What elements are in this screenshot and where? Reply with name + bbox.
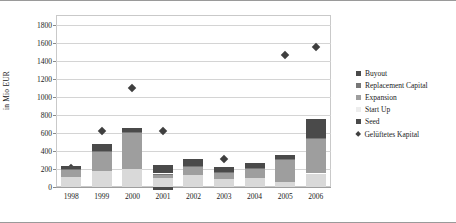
y-tick-label: 1000 — [37, 93, 52, 102]
bar-segment[interactable] — [122, 133, 142, 169]
bar-segment[interactable] — [61, 166, 81, 169]
bar-segment[interactable] — [214, 172, 234, 173]
y-tick-label: 0 — [48, 183, 52, 192]
stacked-bar[interactable] — [306, 15, 326, 187]
bar-group: 2003 — [209, 15, 240, 187]
chart-legend: BuyoutReplacement CapitalExpansionStart … — [356, 67, 454, 140]
bar-segment[interactable] — [245, 163, 265, 168]
bar-segment[interactable] — [306, 138, 326, 139]
plot-area: 020040060080010001200140016001800 199819… — [56, 15, 331, 187]
x-tick-label: 2004 — [247, 192, 262, 201]
bar-segment[interactable] — [214, 173, 234, 179]
legend-label: Expansion — [365, 93, 397, 102]
bar-segment[interactable] — [245, 169, 265, 178]
y-tick-label: 1400 — [37, 57, 52, 66]
stacked-bar[interactable] — [92, 15, 112, 187]
stacked-bar[interactable] — [122, 15, 142, 187]
stacked-bar[interactable] — [275, 15, 295, 187]
bar-segment[interactable] — [61, 177, 81, 187]
square-swatch-icon — [356, 83, 361, 88]
bar-segment[interactable] — [92, 171, 112, 187]
bar-segment[interactable] — [153, 174, 173, 178]
bar-segment[interactable] — [153, 178, 173, 187]
bar-segment[interactable] — [306, 119, 326, 139]
square-swatch-icon — [356, 119, 361, 124]
bar-segment[interactable] — [122, 169, 142, 187]
bar-group: 2005 — [270, 15, 301, 187]
y-tick-label: 600 — [41, 129, 52, 138]
bar-segment[interactable] — [275, 159, 295, 160]
bar-segment[interactable] — [214, 167, 234, 172]
bar-segment[interactable] — [306, 139, 326, 173]
x-tick-label: 1998 — [64, 192, 79, 201]
bar-segment[interactable] — [214, 179, 234, 187]
legend-label: Replacement Capital — [365, 81, 428, 90]
bar-segment[interactable] — [275, 160, 295, 183]
bar-segment[interactable] — [245, 168, 265, 169]
legend-item[interactable]: Buyout — [356, 67, 454, 79]
y-tick-label: 200 — [41, 165, 52, 174]
y-tick-mark — [53, 187, 56, 188]
bar-segment[interactable] — [275, 182, 295, 187]
bar-segment[interactable] — [122, 128, 142, 132]
y-axis-label: in Mio EUR — [2, 71, 16, 110]
legend-label: Buyout — [365, 69, 387, 78]
bar-segment[interactable] — [245, 178, 265, 187]
bar-segment[interactable] — [306, 174, 326, 188]
y-tick-label: 1600 — [37, 39, 52, 48]
y-tick-label: 800 — [41, 111, 52, 120]
square-swatch-icon — [356, 71, 361, 76]
legend-label: Gelüftetes Kapital — [364, 130, 419, 139]
x-tick-label: 2001 — [155, 192, 170, 201]
legend-item[interactable]: Seed — [356, 116, 454, 128]
stacked-bar[interactable] — [245, 15, 265, 187]
bar-segment[interactable] — [183, 175, 203, 187]
y-tick-label: 1800 — [37, 21, 52, 30]
stacked-bar[interactable] — [153, 15, 173, 187]
bar-segment[interactable] — [61, 170, 81, 176]
bar-segment[interactable] — [92, 151, 112, 152]
stacked-bar[interactable] — [183, 15, 203, 187]
bar-segment[interactable] — [61, 169, 81, 170]
bar-segment[interactable] — [183, 159, 203, 166]
bar-group: 2004 — [239, 15, 270, 187]
legend-item[interactable]: Expansion — [356, 91, 454, 103]
y-tick-label: 1200 — [37, 75, 52, 84]
x-tick-label: 2005 — [278, 192, 293, 201]
x-tick-label: 2000 — [125, 192, 140, 201]
y-tick-label: 400 — [41, 147, 52, 156]
chart-figure: in Mio EUR 02004006008001000120014001600… — [0, 0, 456, 223]
legend-item[interactable]: Replacement Capital — [356, 79, 454, 91]
square-swatch-icon — [356, 107, 361, 112]
x-tick-label: 2002 — [186, 192, 201, 201]
axis-zero-line — [56, 187, 331, 188]
bar-group: 1999 — [87, 15, 118, 187]
bar-segment[interactable] — [122, 132, 142, 133]
x-tick-label: 2006 — [308, 192, 323, 201]
bar-group: 1998 — [56, 15, 87, 187]
stacked-bar[interactable] — [214, 15, 234, 187]
stacked-bar[interactable] — [61, 15, 81, 187]
bar-group: 2006 — [300, 15, 331, 187]
x-tick-label: 1999 — [94, 192, 109, 201]
bar-group: 2001 — [148, 15, 179, 187]
bar-group: 2002 — [178, 15, 209, 187]
square-swatch-icon — [356, 95, 361, 100]
bar-segment[interactable] — [275, 155, 295, 159]
bar-segment[interactable] — [153, 165, 173, 174]
bar-group: 2000 — [117, 15, 148, 187]
legend-label: Start Up — [365, 105, 390, 114]
bar-segment-negative[interactable] — [153, 187, 173, 190]
bar-segment[interactable] — [153, 174, 173, 175]
diamond-marker-icon — [355, 131, 361, 137]
bar-segment[interactable] — [183, 167, 203, 176]
bar-segment[interactable] — [92, 151, 112, 170]
x-tick-label: 2003 — [217, 192, 232, 201]
bar-segment[interactable] — [183, 166, 203, 167]
legend-item[interactable]: Gelüftetes Kapital — [356, 128, 454, 140]
bar-segment[interactable] — [92, 144, 112, 150]
legend-item[interactable]: Start Up — [356, 104, 454, 116]
legend-label: Seed — [365, 117, 380, 126]
